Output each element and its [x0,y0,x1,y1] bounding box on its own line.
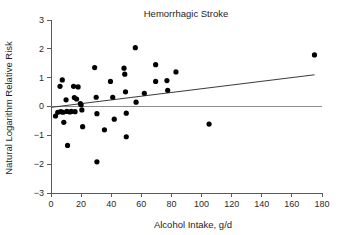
data-point [133,45,138,50]
data-point [79,107,84,112]
data-point [108,79,113,84]
x-tick-label: 160 [284,199,299,209]
y-axis-ticks: −3−2−10123 [34,15,51,198]
x-tick-label: 120 [224,199,239,209]
y-tick-label: −2 [34,159,44,169]
data-points [53,45,317,164]
x-tick-label: 180 [314,199,329,209]
data-point [112,117,117,122]
data-point [76,84,81,89]
data-point [57,84,62,89]
data-point [80,124,85,129]
data-point [71,84,76,89]
x-tick-label: 100 [194,199,209,209]
x-tick-label: 140 [254,199,269,209]
data-point [94,95,99,100]
y-tick-label: −3 [34,188,44,198]
data-point [74,96,79,101]
x-tick-label: 80 [166,199,176,209]
data-point [124,134,129,139]
x-tick-label: 20 [76,199,86,209]
data-point [65,143,70,148]
data-point [92,65,97,70]
data-point [164,78,169,83]
data-point [110,95,115,100]
data-point [142,91,147,96]
data-point [133,100,138,105]
data-point [165,88,170,93]
y-tick-label: 1 [39,73,44,83]
y-tick-label: −1 [34,130,44,140]
y-tick-label: 0 [39,101,44,111]
data-point [72,109,77,114]
data-point [121,66,126,71]
x-axis-ticks: 020406080100120140160180 [48,193,329,209]
scatter-plot: Hemorrhagic Stroke −3−2−10123 0204060801… [0,0,349,235]
data-point [60,77,65,82]
data-point [63,97,68,102]
y-tick-label: 3 [39,15,44,25]
data-point [123,89,128,94]
data-point [312,52,317,57]
data-point [94,111,99,116]
chart-title: Hemorrhagic Stroke [144,8,228,19]
data-point [153,62,158,67]
x-tick-label: 40 [106,199,116,209]
data-point [61,120,66,125]
x-tick-label: 60 [136,199,146,209]
chart-figure: Hemorrhagic Stroke −3−2−10123 0204060801… [0,0,349,235]
y-axis-label: Natural Logarithm Relative Risk [3,41,14,175]
data-point [124,111,129,116]
x-axis-label: Alcohol Intake, g/d [154,219,232,230]
x-tick-label: 0 [48,199,53,209]
data-point [94,159,99,164]
data-point [122,72,127,77]
regression-line [51,75,314,108]
data-point [173,69,178,74]
data-point [153,79,158,84]
data-point [206,121,211,126]
data-point [79,102,84,107]
y-tick-label: 2 [39,44,44,54]
data-point [102,127,107,132]
